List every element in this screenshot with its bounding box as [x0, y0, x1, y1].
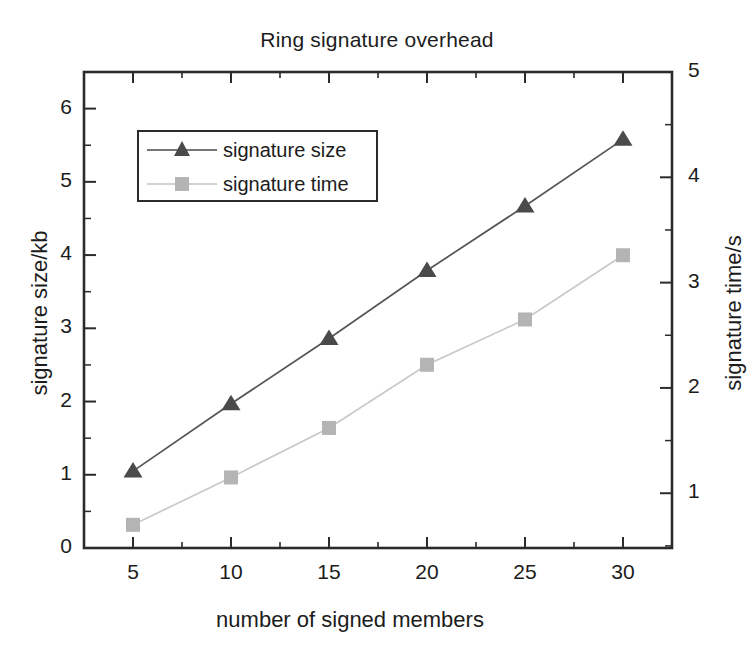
- y-tick-label-right: 3: [688, 269, 728, 293]
- legend-swatch-square-icon: [145, 169, 219, 199]
- legend-swatch-triangle-icon: [145, 135, 219, 165]
- legend-label-signature-size: signature size: [223, 139, 346, 162]
- y-tick-label-left: 3: [32, 314, 72, 338]
- y-tick-label-left: 4: [32, 241, 72, 265]
- legend-label-signature-time: signature time: [223, 173, 349, 196]
- x-tick-label: 20: [405, 560, 449, 584]
- x-tick-label: 5: [111, 560, 155, 584]
- y-tick-label-right: 4: [688, 163, 728, 187]
- chart-figure: Ring signature overhead signature size/k…: [0, 0, 754, 654]
- y-tick-label-left: 6: [32, 95, 72, 119]
- y-tick-label-right: 1: [688, 479, 728, 503]
- y-tick-label-right: 5: [688, 58, 728, 82]
- y-tick-label-left: 5: [32, 168, 72, 192]
- y-tick-label-left: 1: [32, 461, 72, 485]
- x-tick-label: 10: [209, 560, 253, 584]
- x-tick-label: 15: [307, 560, 351, 584]
- plot-area: [0, 0, 754, 654]
- x-tick-label: 25: [503, 560, 547, 584]
- legend: signature size signature time: [137, 130, 378, 202]
- legend-item-signature-time: signature time: [139, 166, 376, 202]
- legend-item-signature-size: signature size: [139, 132, 376, 168]
- x-tick-label: 30: [601, 560, 645, 584]
- y-tick-label-left: 0: [32, 534, 72, 558]
- y-tick-label-left: 2: [32, 388, 72, 412]
- y-tick-label-right: 2: [688, 374, 728, 398]
